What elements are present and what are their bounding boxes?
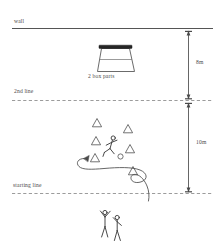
figure-b-leg-left xyxy=(114,231,117,241)
figure-runner xyxy=(103,136,117,157)
dimension-10m xyxy=(185,103,192,193)
cone xyxy=(123,125,132,133)
figure-b-leg-right xyxy=(117,231,120,241)
cone-group xyxy=(90,119,137,175)
cone xyxy=(90,154,99,162)
diagram-scene xyxy=(0,0,218,251)
figure-waiting-b xyxy=(113,215,121,240)
runner-leg-back xyxy=(104,149,110,153)
cone xyxy=(125,145,134,153)
figure-a-leg-left xyxy=(102,227,105,238)
figure-b-head xyxy=(115,215,119,219)
runner-head xyxy=(111,136,115,140)
runner-foot-back xyxy=(103,152,104,156)
runner-torso xyxy=(110,140,112,148)
label-starting-line: starting line xyxy=(13,183,42,189)
ball-icon xyxy=(118,154,123,159)
figure-a-head xyxy=(103,210,107,214)
figure-a-leg-right xyxy=(105,227,108,238)
cone xyxy=(91,137,100,145)
label-second-line: 2nd line xyxy=(14,89,33,95)
slalom-path xyxy=(77,155,149,201)
box-top-pad xyxy=(99,45,132,48)
diagram-canvas: wall 2nd line starting line 2 box parts … xyxy=(0,0,218,251)
runner-leg-front xyxy=(110,149,114,154)
figure-b-arm-right xyxy=(117,222,121,226)
dimension-8m xyxy=(185,31,192,100)
label-box-parts: 2 box parts xyxy=(88,74,115,80)
label-dimension-10m: 10m xyxy=(196,140,206,146)
cone xyxy=(92,119,101,127)
label-wall: wall xyxy=(14,19,24,25)
path-curve xyxy=(77,159,149,202)
path-arrowhead xyxy=(84,155,90,161)
figure-waiting-a xyxy=(100,210,110,237)
label-dimension-8m: 8m xyxy=(196,60,203,66)
vaulting-box xyxy=(98,45,135,71)
box-body xyxy=(98,49,135,72)
